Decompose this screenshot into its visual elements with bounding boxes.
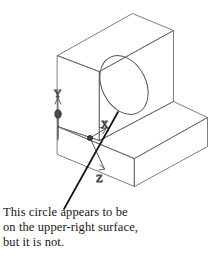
y-axis-label: Y bbox=[54, 88, 61, 99]
circle-on-front-face bbox=[90, 47, 157, 122]
figure-root: Y X Z This circle appears to be on the u… bbox=[0, 0, 222, 257]
base-right-face bbox=[135, 118, 208, 187]
back-plate-left-face bbox=[58, 56, 100, 141]
x-axis-label: X bbox=[101, 119, 109, 130]
annotation-caption: This circle appears to be on the upper-r… bbox=[3, 205, 163, 250]
caption-line-1: This circle appears to be bbox=[3, 205, 163, 220]
vertical-back-plate bbox=[58, 14, 174, 141]
z-axis-label: Z bbox=[96, 172, 103, 184]
caption-line-3: but it is not. bbox=[3, 235, 163, 250]
caption-line-2: on the upper-right surface, bbox=[3, 220, 163, 235]
y-axis-marker bbox=[55, 110, 61, 118]
